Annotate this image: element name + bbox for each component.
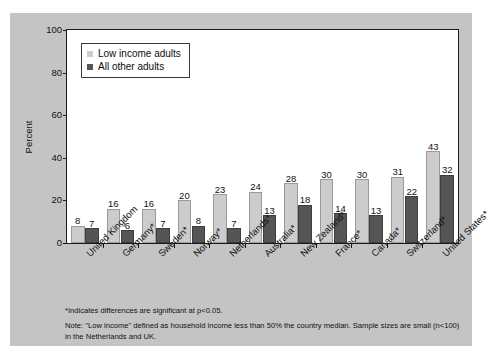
note-definition: Note: "Low income" defined as household … [65, 320, 461, 342]
legend-item: All other adults [87, 61, 181, 74]
bar-group: 237 [209, 30, 245, 243]
bar-group: 2413 [245, 30, 281, 243]
y-tick-label: 80 [51, 68, 62, 78]
y-tick-mark [63, 243, 67, 244]
legend-label: All other adults [98, 61, 164, 74]
bar-group: 3122 [387, 30, 423, 243]
bar-value-label: 8 [75, 216, 80, 226]
bar-value-label: 18 [300, 195, 311, 205]
bar-value-label: 22 [406, 187, 417, 197]
bar-value-label: 7 [231, 219, 236, 229]
bar-value-label: 20 [179, 191, 190, 201]
bar-value-label: 8 [196, 216, 201, 226]
bar-group: 4332 [422, 30, 458, 243]
y-tick-label: 100 [46, 25, 62, 35]
chart-panel: Percent 02040608010087166167208237241328… [10, 13, 472, 346]
page-bleed-text [12, 356, 472, 362]
legend-swatch-icon [87, 64, 93, 70]
chart-notes: *Indicates differences are significant a… [65, 305, 461, 342]
bar-value-label: 16 [144, 199, 155, 209]
y-axis-title: Percent [23, 121, 34, 154]
bar: 32 [440, 175, 454, 243]
bar-value-label: 32 [442, 165, 453, 175]
bar: 8 [71, 226, 85, 243]
y-tick-label: 40 [51, 153, 62, 163]
bar-value-label: 30 [357, 170, 368, 180]
bar-value-label: 24 [250, 182, 261, 192]
legend-label: Low income adults [98, 48, 181, 61]
bar-value-label: 28 [286, 174, 297, 184]
bar-value-label: 7 [89, 219, 94, 229]
legend-item: Low income adults [87, 48, 181, 61]
bar-value-label: 16 [108, 199, 119, 209]
bar: 22 [405, 196, 419, 243]
bar-group: 3014 [316, 30, 352, 243]
y-tick-label: 20 [51, 196, 62, 206]
bar-value-label: 7 [160, 219, 165, 229]
bar-value-label: 23 [215, 185, 226, 195]
bar-value-label: 43 [428, 142, 439, 152]
y-tick-label: 0 [57, 238, 62, 248]
legend-swatch-icon [87, 51, 93, 57]
note-significance: *Indicates differences are significant a… [65, 305, 461, 316]
bar-group: 3013 [351, 30, 387, 243]
bar-group: 2818 [280, 30, 316, 243]
bar-value-label: 30 [321, 170, 332, 180]
legend: Low income adultsAll other adults [81, 43, 190, 78]
bar: 18 [298, 205, 312, 243]
y-tick-label: 60 [51, 110, 62, 120]
bar-value-label: 13 [371, 206, 382, 216]
bar-value-label: 31 [392, 167, 403, 177]
